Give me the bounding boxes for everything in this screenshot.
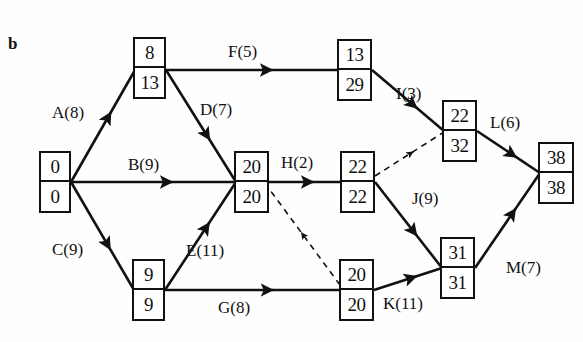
node-g-20-20-latest: 20 [341,290,372,319]
node-jk-31-31-latest: 31 [442,268,473,297]
edge-k-line [374,268,442,290]
edge-j-label: J(9) [412,189,438,209]
edge-k-label: K(11) [383,294,423,314]
node-end-38-38-latest: 38 [540,173,572,202]
node-bd-20-20-earliest: 20 [236,153,267,182]
edge-g-label: G(8) [218,298,250,318]
node-end-38-38-earliest: 38 [540,144,572,173]
node-i-22-32-earliest: 22 [444,102,475,131]
edge-m-line [475,173,540,268]
edge-d-label: D(7) [200,100,232,120]
edge-dummy-lower-line [270,190,340,285]
node-a-8-13: 813 [133,37,166,99]
node-h-22-22-earliest: 22 [342,153,373,182]
node-i-22-32-latest: 32 [444,131,475,160]
node-g-20-20: 2020 [339,259,374,321]
node-g-20-20-earliest: 20 [341,261,372,290]
edge-h-label: H(2) [281,153,313,173]
edge-b-label: B(9) [128,155,159,175]
edge-a-line [71,70,135,182]
node-i-22-32: 2232 [442,100,477,162]
edge-l-label: L(6) [490,113,520,133]
edge-e-label: E(11) [186,241,224,261]
node-h-22-22-latest: 22 [342,182,373,211]
node-c-9-9-earliest: 9 [134,261,163,290]
node-f-13-29-earliest: 13 [339,41,370,70]
node-start-latest: 0 [41,182,69,211]
node-jk-31-31: 3131 [440,237,475,299]
edge-m-label: M(7) [506,258,541,278]
node-start-earliest: 0 [41,153,69,182]
node-jk-31-31-earliest: 31 [442,239,473,268]
panel-label: b [8,34,17,54]
edge-a-label: A(8) [52,103,84,123]
node-c-9-9: 99 [132,259,165,321]
edge-l-line [477,131,540,173]
node-f-13-29-latest: 29 [339,70,370,99]
node-f-13-29: 1329 [337,39,372,101]
edge-c-line [71,182,134,290]
edge-i-label: I(3) [396,84,421,104]
node-bd-20-20-latest: 20 [236,182,267,211]
edge-f-label: F(5) [228,42,257,62]
edge-dummy-upper-line [375,132,444,176]
node-a-8-13-latest: 13 [135,68,164,97]
edge-c-label: C(9) [52,240,83,260]
edge-d-line [166,70,236,182]
node-end-38-38: 3838 [538,142,574,204]
node-bd-20-20: 2020 [234,151,269,213]
node-h-22-22: 2222 [340,151,375,213]
node-c-9-9-latest: 9 [134,290,163,319]
node-a-8-13-earliest: 8 [135,39,164,68]
node-start: 00 [39,151,71,213]
edge-e-line [165,182,236,290]
figure-canvas: b 00813992020132922222020223231313838 A(… [0,0,583,342]
